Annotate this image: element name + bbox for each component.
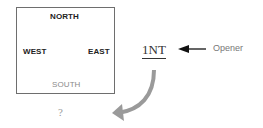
pointer-arrow-icon	[178, 45, 206, 53]
curved-arrow-icon	[112, 70, 154, 121]
opener-label: Opener	[213, 43, 243, 53]
arrows-layer	[0, 0, 263, 128]
